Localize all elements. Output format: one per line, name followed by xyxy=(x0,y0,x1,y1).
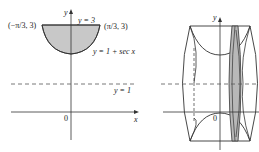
left-point-label: (−π/3, 3) xyxy=(8,21,36,30)
right-outer-ellipse xyxy=(250,26,258,141)
right-y-axis-label: y xyxy=(212,13,217,22)
left-outer-ellipse xyxy=(183,26,191,141)
right-point-label: (π/3, 3) xyxy=(104,22,128,31)
right-y-axis-arrow-icon xyxy=(218,17,222,22)
right-graph: y 0 xyxy=(161,13,259,150)
top-line-label: y = 3 xyxy=(77,16,95,25)
y-axis-arrow-icon xyxy=(69,9,73,14)
x-axis-label: x xyxy=(133,115,138,124)
x-axis-arrow-icon xyxy=(134,110,139,114)
asymptote-label: y = 1 xyxy=(113,86,131,95)
origin-label: 0 xyxy=(64,114,68,123)
y-axis-label: y xyxy=(63,8,68,17)
right-origin-label: 0 xyxy=(213,114,217,123)
left-graph: y x 0 y = 3 y = 1 + sec x y = 1 (−π/3, 3… xyxy=(8,8,139,140)
curve-label: y = 1 + sec x xyxy=(92,47,136,56)
